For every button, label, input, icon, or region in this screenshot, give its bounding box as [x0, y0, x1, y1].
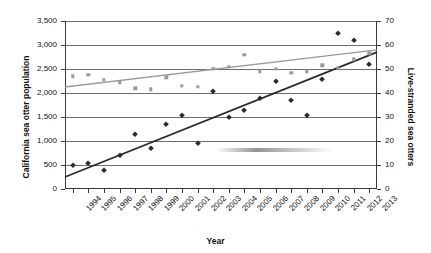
x-axis-tick-mark: [369, 189, 370, 193]
x-axis-tick-mark: [354, 189, 355, 193]
x-axis-tick-label: 2008: [302, 194, 321, 213]
data-point-diamond: [117, 153, 122, 158]
data-point-square: [227, 65, 230, 68]
data-point-diamond: [101, 167, 106, 172]
y-axis-right-tick-mark: [377, 165, 381, 166]
data-point-diamond: [86, 160, 91, 165]
y-axis-right-tick-mark: [377, 21, 381, 22]
y-axis-right-tick-label: 40: [385, 88, 415, 97]
data-point-square: [321, 64, 324, 67]
x-axis-tick-mark: [166, 189, 167, 193]
y-axis-left-tick-label: 1,000: [13, 136, 57, 145]
y-axis-right-tick-label: 30: [385, 112, 415, 121]
x-axis-tick-label: 2000: [178, 194, 197, 213]
y-axis-left-tick-label: 3,000: [13, 40, 57, 49]
data-point-diamond: [195, 141, 200, 146]
x-axis-tick-label: 2010: [334, 194, 353, 213]
data-point-diamond: [257, 95, 262, 100]
data-point-square: [71, 74, 74, 77]
x-axis-tick-label: 2011: [349, 194, 368, 213]
x-axis-tick-mark: [213, 189, 214, 193]
x-axis-tick-label: 1994: [84, 194, 103, 213]
x-axis-tick-mark: [276, 189, 277, 193]
data-point-square: [149, 88, 152, 91]
data-point-square: [305, 70, 308, 73]
data-point-square: [289, 71, 292, 74]
data-point-diamond: [304, 112, 309, 117]
data-point-diamond: [289, 98, 294, 103]
scan-artifact-smudge: [215, 148, 333, 152]
x-axis-tick-mark: [229, 189, 230, 193]
data-point-diamond: [226, 114, 231, 119]
x-axis-tick-mark: [135, 189, 136, 193]
y-axis-left-tick-label: 2,500: [13, 64, 57, 73]
chart-container: California sea otter population Live-str…: [0, 0, 431, 253]
x-axis-tick-mark: [182, 189, 183, 193]
x-axis-tick-label: 2005: [256, 194, 275, 213]
data-point-diamond: [335, 30, 340, 35]
data-point-square: [274, 67, 277, 70]
data-point-diamond: [179, 112, 184, 117]
data-point-square: [367, 52, 370, 55]
y-axis-right-tick-label: 50: [385, 64, 415, 73]
data-point-square: [133, 86, 136, 89]
x-axis-tick-mark: [151, 189, 152, 193]
y-axis-right-tick-label: 10: [385, 160, 415, 169]
x-axis-tick-label: 2001: [193, 194, 212, 213]
data-point-square: [118, 80, 121, 83]
y-axis-left-tick-mark: [61, 189, 65, 190]
data-point-diamond: [133, 131, 138, 136]
data-point-square: [336, 66, 339, 69]
data-point-square: [196, 85, 199, 88]
y-axis-right-tick-label: 70: [385, 16, 415, 25]
y-axis-right-tick-mark: [377, 45, 381, 46]
data-point-diamond: [70, 162, 75, 167]
x-axis-tick-mark: [198, 189, 199, 193]
x-axis-tick-mark: [73, 189, 74, 193]
data-point-diamond: [273, 78, 278, 83]
x-axis-tick-label: 2013: [380, 194, 399, 213]
x-axis-tick-mark: [88, 189, 89, 193]
x-axis-tick-mark: [322, 189, 323, 193]
data-point-square: [258, 70, 261, 73]
y-axis-right-tick-mark: [377, 69, 381, 70]
data-point-square: [352, 58, 355, 61]
x-axis-tick-label: 1996: [115, 194, 134, 213]
data-point-square: [102, 78, 105, 81]
x-axis-tick-label: 1998: [146, 194, 165, 213]
x-axis-tick-mark: [120, 189, 121, 193]
x-axis-tick-label: 2007: [287, 194, 306, 213]
x-axis-title: Year: [0, 236, 431, 246]
x-axis-tick-mark: [338, 189, 339, 193]
data-point-diamond: [242, 107, 247, 112]
y-axis-right-tick-mark: [377, 141, 381, 142]
x-axis-tick-label: 2002: [209, 194, 228, 213]
y-axis-left-tick-label: 0: [13, 184, 57, 193]
x-axis-tick-label: 2012: [365, 194, 384, 213]
y-axis-right-tick-label: 0: [385, 184, 415, 193]
x-axis-tick-mark: [291, 189, 292, 193]
plot-area: [65, 21, 377, 189]
y-axis-right-tick-label: 20: [385, 136, 415, 145]
y-axis-right-tick-mark: [377, 189, 381, 190]
data-point-square: [165, 76, 168, 79]
y-axis-left-tick-label: 2,000: [13, 88, 57, 97]
x-axis-tick-label: 1997: [131, 194, 150, 213]
x-axis-tick-mark: [260, 189, 261, 193]
x-axis-tick-label: 2006: [271, 194, 290, 213]
data-point-diamond: [211, 88, 216, 93]
x-axis-tick-mark: [307, 189, 308, 193]
y-axis-left-tick-label: 500: [13, 160, 57, 169]
data-point-diamond: [148, 146, 153, 151]
x-axis-tick-mark: [244, 189, 245, 193]
data-point-diamond: [351, 38, 356, 43]
y-axis-left-tick-label: 1,500: [13, 112, 57, 121]
data-point-diamond: [164, 122, 169, 127]
x-axis-tick-label: 2009: [318, 194, 337, 213]
data-points-layer: [65, 21, 377, 189]
data-point-diamond: [320, 76, 325, 81]
x-axis-tick-mark: [104, 189, 105, 193]
data-point-square: [243, 53, 246, 56]
y-axis-right-tick-mark: [377, 117, 381, 118]
data-point-diamond: [367, 62, 372, 67]
